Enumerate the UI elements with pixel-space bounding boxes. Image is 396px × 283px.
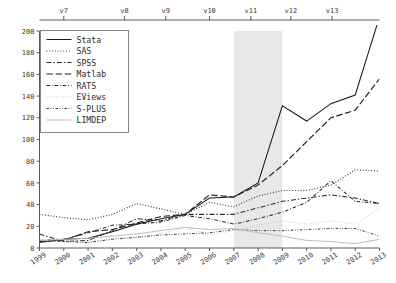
chart-container: 020406080100120140160180200 199920002001… [0,0,396,283]
y-tick-label: 0 [30,245,34,253]
top-axis-tick-label: v9 [162,7,170,15]
legend-label-stata: Stata [77,35,102,45]
top-axis-tick-label: v12 [285,7,298,15]
legend-label-limdep: LIMDEP [77,115,107,125]
x-tick-label: 2009 [272,251,291,267]
x-tick-label: 2000 [53,251,72,267]
x-axis-group: 1999200020012002200320042005200620072008… [29,248,388,267]
legend-label-s-plus: S-PLUS [77,104,107,114]
legend-label-spss: SPSS [77,58,97,68]
y-tick-label: 100 [22,136,35,144]
y-tick-label: 140 [22,93,35,101]
x-tick-label: 2008 [248,251,267,267]
y-tick-label: 80 [26,158,34,166]
x-tick-label: 2010 [296,251,315,267]
y-tick-label: 200 [22,28,35,36]
top-axis-tick-label: v7 [60,7,68,15]
shaded-region [234,31,283,248]
x-tick-label: 2004 [151,251,170,267]
x-tick-label: 2011 [321,251,340,267]
legend-label-rats: RATS [77,81,97,91]
y-tick-label: 160 [22,71,35,79]
legend-group: StataSASSPSSMatlabRATSEViewsS-PLUSLIMDEP [41,31,129,133]
shaded-region-group [234,31,283,248]
x-tick-label: 2003 [126,251,145,267]
y-tick-label: 40 [26,201,34,209]
x-tick-label: 2012 [345,251,364,267]
top-axis-tick-label: v10 [203,7,216,15]
series-line-s-plus [40,228,380,242]
y-tick-label: 60 [26,180,34,188]
line-chart: 020406080100120140160180200 199920002001… [0,0,396,283]
top-axis-group: v7v8v9v10v11v12v13 [40,7,380,20]
y-tick-label: 20 [26,223,34,231]
top-axis-tick-label: v11 [244,7,257,15]
x-tick-label: 2002 [102,251,121,267]
top-axis-tick-label: v13 [326,7,339,15]
series-line-sas [40,170,380,220]
y-tick-label: 120 [22,114,35,122]
top-axis-tick-label: v8 [120,7,128,15]
series-line-rats [40,181,380,241]
legend-label-matlab: Matlab [77,69,107,79]
legend-label-sas: SAS [77,46,92,56]
x-tick-label: 2013 [369,251,388,267]
y-axis-group: 020406080100120140160180200 [22,28,40,253]
x-tick-label: 2001 [78,251,97,267]
x-tick-label: 2007 [223,251,242,267]
series-line-limdep [40,227,380,243]
x-tick-label: 1999 [29,251,48,267]
x-tick-label: 2005 [175,251,194,267]
y-tick-label: 180 [22,49,35,57]
legend-label-eviews: EViews [77,92,107,102]
x-tick-label: 2006 [199,251,218,267]
